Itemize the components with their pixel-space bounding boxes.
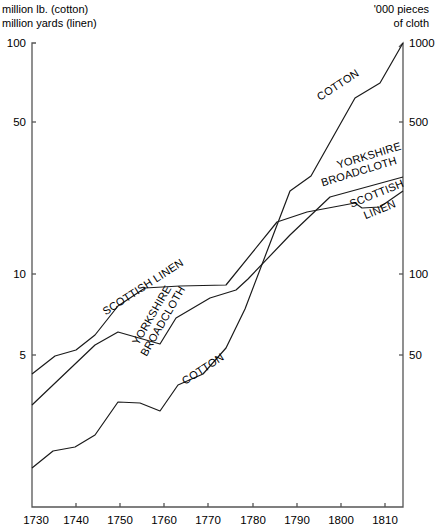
series-cotton [32, 43, 403, 468]
series-yorkshire-broadcloth [32, 177, 403, 405]
left-axis-title-line1: million lb. (cotton) [2, 3, 88, 15]
left-tick-50: 50 [13, 116, 26, 128]
left-axis-title-line2: million yards (linen) [2, 17, 97, 29]
x-tick-1730: 1730 [23, 514, 49, 526]
right-tick-100: 100 [409, 268, 428, 280]
label-cotton-lower: COTTON [180, 351, 226, 387]
x-tick-1770: 1770 [195, 514, 221, 526]
label-cotton-upper: COTTON [315, 67, 361, 103]
right-axis-title-line1: '000 pieces [374, 3, 430, 15]
right-tick-1000: 1000 [409, 37, 435, 49]
right-tick-500: 500 [409, 116, 428, 128]
x-tick-1760: 1760 [151, 514, 177, 526]
right-tick-50: 50 [409, 349, 422, 361]
right-axis-title-line2: of cloth [394, 17, 429, 29]
chart: million lb. (cotton) million yards (line… [0, 0, 437, 532]
series-scottish-linen [32, 191, 403, 374]
x-tick-1780: 1780 [240, 514, 266, 526]
left-tick-100: 100 [7, 37, 26, 49]
x-tick-1810: 1810 [372, 514, 398, 526]
left-tick-10: 10 [13, 268, 26, 280]
x-tick-1740: 1740 [63, 514, 89, 526]
left-tick-5: 5 [20, 349, 26, 361]
right-axis: 1000 500 100 50 [399, 37, 435, 361]
x-tick-1790: 1790 [284, 514, 310, 526]
x-tick-1800: 1800 [328, 514, 354, 526]
x-tick-1750: 1750 [107, 514, 133, 526]
